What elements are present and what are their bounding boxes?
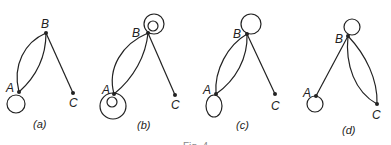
panel-c: B A C (c) bbox=[202, 14, 280, 131]
label-c: C bbox=[372, 108, 381, 122]
caption-a: (a) bbox=[33, 118, 47, 130]
label-a: A bbox=[202, 83, 211, 97]
graph-figure: B A C (a) B A C (b) B A C (c) bbox=[0, 0, 391, 145]
label-b: B bbox=[233, 27, 241, 41]
caption-c: (c) bbox=[236, 119, 249, 131]
loop-a bbox=[7, 95, 25, 113]
loop-b-inner bbox=[148, 21, 158, 31]
caption-b: (b) bbox=[137, 119, 151, 131]
node-b bbox=[146, 31, 150, 35]
edge-a-b-1 bbox=[112, 33, 148, 94]
edge-b-c bbox=[247, 34, 275, 94]
caption-d: (d) bbox=[342, 124, 356, 136]
edge-b-c-2 bbox=[348, 36, 377, 104]
edge-b-c bbox=[148, 33, 175, 95]
edge-b-c-1 bbox=[347, 36, 377, 104]
edge-a-b-2 bbox=[114, 33, 148, 94]
panel-b: B A C (b) bbox=[100, 14, 180, 131]
node-a bbox=[112, 92, 116, 96]
loop-b bbox=[344, 19, 360, 35]
label-a: A bbox=[302, 86, 311, 100]
label-a: A bbox=[5, 81, 14, 95]
panel-a: B A C (a) bbox=[5, 17, 78, 130]
edge-a-b bbox=[316, 36, 348, 96]
node-c bbox=[273, 92, 277, 96]
label-c: C bbox=[271, 99, 280, 113]
node-a bbox=[17, 90, 21, 94]
label-b: B bbox=[132, 26, 140, 40]
edge-a-b-1 bbox=[17, 33, 46, 92]
node-c bbox=[173, 93, 177, 97]
node-c bbox=[375, 102, 379, 106]
node-a bbox=[214, 92, 218, 96]
label-c: C bbox=[69, 96, 78, 110]
node-a bbox=[314, 94, 318, 98]
node-c bbox=[71, 91, 75, 95]
node-b bbox=[245, 32, 249, 36]
node-b bbox=[346, 34, 350, 38]
loop-a-inner bbox=[107, 97, 117, 107]
label-a: A bbox=[101, 83, 110, 97]
loop-a bbox=[206, 95, 222, 117]
loop-b bbox=[241, 14, 261, 34]
panel-d: B A C (d) bbox=[302, 19, 381, 136]
edge-a-b-1 bbox=[216, 34, 247, 94]
label-b: B bbox=[335, 32, 343, 46]
node-b bbox=[44, 31, 48, 35]
figure-caption: Fig. 4 bbox=[183, 141, 208, 145]
label-b: B bbox=[41, 17, 49, 31]
label-c: C bbox=[171, 98, 180, 112]
edge-b-c bbox=[46, 33, 73, 93]
